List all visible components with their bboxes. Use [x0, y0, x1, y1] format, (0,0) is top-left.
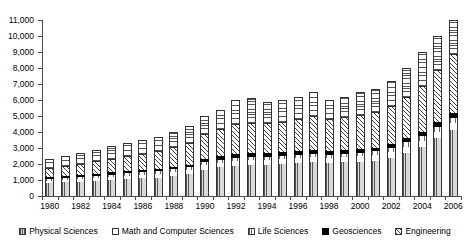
bar-segment-other [247, 98, 256, 123]
x-axis-tick [414, 196, 415, 200]
x-axis-tick [445, 196, 446, 200]
bar-segment-physical-sciences [123, 179, 132, 196]
bar-1988 [169, 132, 178, 196]
x-axis-tick-label: 1994 [250, 202, 284, 211]
bar-segment-physical-sciences [169, 176, 178, 196]
x-axis-tick [306, 196, 307, 200]
x-axis-tick [182, 196, 183, 200]
bar-segment-engineering [433, 71, 442, 122]
bar-segment-engineering [309, 117, 318, 150]
bar-segment-other [402, 68, 411, 98]
y-axis-tick-label: 9,000 [0, 48, 34, 57]
bar-segment-engineering [107, 160, 116, 172]
bar-segment-engineering [185, 144, 194, 165]
legend-swatch-icon [19, 228, 26, 235]
x-axis-tick [321, 196, 322, 200]
bar-1982 [76, 153, 85, 196]
bar-2000 [356, 92, 365, 196]
x-axis-tick-label: 1980 [33, 202, 67, 211]
x-axis-tick-label: 1992 [219, 202, 253, 211]
bar-1993 [247, 98, 256, 196]
bar-segment-physical-sciences [76, 182, 85, 196]
x-axis-tick [383, 196, 384, 200]
x-axis-tick [135, 196, 136, 200]
bar-segment-other [231, 100, 240, 125]
bar-segment-physical-sciences [387, 158, 396, 196]
x-axis-tick-label: 2006 [436, 202, 470, 211]
x-axis-tick [89, 196, 90, 200]
bar-segment-engineering [371, 113, 380, 147]
bar-1996 [294, 97, 303, 196]
bar-segment-physical-sciences [449, 130, 458, 196]
y-axis-tick-label: 1,000 [0, 176, 34, 185]
bar-segment-other [169, 132, 178, 148]
bar-segment-other [340, 97, 349, 118]
bar-segment-engineering [278, 123, 287, 153]
legend-swatch-icon [395, 228, 402, 235]
x-axis-tick [73, 196, 74, 200]
x-axis-tick [290, 196, 291, 200]
bar-segment-math-and-computer-sciences [449, 123, 458, 130]
bar-segment-other [107, 146, 116, 159]
y-axis-tick-label: 8,000 [0, 64, 34, 73]
y-axis-tick-label: 4,000 [0, 128, 34, 137]
bar-segment-other [433, 36, 442, 71]
bar-segment-other [371, 89, 380, 113]
bar-segment-engineering [340, 118, 349, 150]
x-axis-tick-label: 1982 [64, 202, 98, 211]
bar-segment-other [387, 81, 396, 107]
bar-2005 [433, 36, 442, 196]
bar-1981 [61, 156, 70, 196]
stacked-bar-chart: 01,0002,0003,0004,0005,0006,0007,0008,00… [0, 0, 470, 242]
x-axis-tick [430, 196, 431, 200]
y-axis-tick-label: 2,000 [0, 160, 34, 169]
legend-label: Life Sciences [258, 226, 309, 236]
bar-2006 [449, 20, 458, 196]
bar-segment-engineering [92, 162, 101, 173]
bar-segment-other [154, 137, 163, 152]
bar-segment-engineering [45, 169, 54, 177]
bar-1991 [216, 110, 225, 196]
bar-segment-other [61, 156, 70, 167]
bar-segment-physical-sciences [138, 178, 147, 196]
bar-segment-physical-sciences [325, 163, 334, 196]
bar-2003 [402, 68, 411, 196]
bar-segment-engineering [247, 124, 256, 154]
bar-1999 [340, 97, 349, 196]
bar-1990 [200, 116, 209, 196]
bar-1998 [325, 100, 334, 196]
bar-segment-physical-sciences [61, 182, 70, 196]
bar-segment-other [200, 116, 209, 135]
bar-1989 [185, 126, 194, 196]
bar-segment-engineering [154, 152, 163, 169]
bar-segment-other [449, 20, 458, 55]
x-axis-tick [42, 196, 43, 200]
x-axis-tick-label: 1998 [312, 202, 346, 211]
bar-segment-other [76, 153, 85, 165]
bar-segment-engineering [402, 98, 411, 138]
x-axis-tick [151, 196, 152, 200]
bar-segment-physical-sciences [92, 181, 101, 196]
bar-segment-other [309, 92, 318, 117]
bar-1997 [309, 92, 318, 196]
bar-segment-other [185, 126, 194, 144]
bar-segment-engineering [169, 148, 178, 166]
x-axis-tick [461, 196, 462, 200]
x-axis-tick [352, 196, 353, 200]
bar-segment-other [92, 150, 101, 163]
chart-legend: Physical SciencesMath and Computer Scien… [0, 224, 470, 238]
bar-segment-engineering [200, 135, 209, 159]
bar-1987 [154, 137, 163, 196]
legend-label: Geosciences [332, 226, 381, 236]
bar-1992 [231, 100, 240, 196]
bar-segment-physical-sciences [45, 183, 54, 196]
y-axis-tick-label: 0 [0, 192, 34, 201]
legend-item-geosciences: Geosciences [322, 226, 381, 236]
x-axis-tick-label: 1986 [126, 202, 160, 211]
bar-segment-math-and-computer-sciences [433, 132, 442, 139]
y-axis-tick-label: 6,000 [0, 96, 34, 105]
x-axis-tick [120, 196, 121, 200]
plot-area [42, 20, 460, 196]
x-axis-tick-label: 1984 [95, 202, 129, 211]
bar-1994 [263, 102, 272, 196]
